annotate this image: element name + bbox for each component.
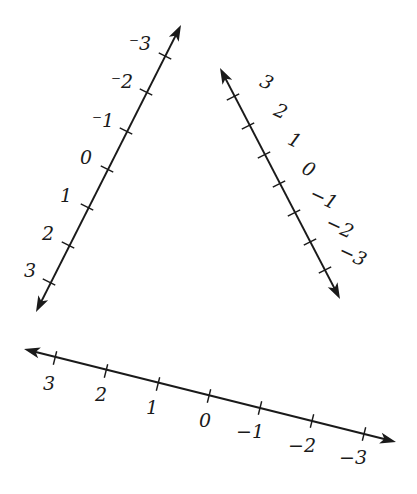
tick-label: ⁻2 [111, 70, 133, 92]
arrow-end-icon [169, 25, 181, 42]
tick-label: 0 [80, 146, 92, 168]
number-lines-layer: 3210⁻1⁻2⁻33210−1−2−33210−1−2−3 [24, 25, 396, 468]
arrow-start-icon [220, 68, 232, 85]
tick-label: 2 [270, 98, 291, 123]
tick-label: −1 [236, 420, 264, 442]
tick-label: ⁻3 [129, 32, 151, 54]
tick-mark [104, 364, 107, 378]
tick-label: 2 [94, 383, 107, 405]
arrow-end-icon [328, 282, 340, 299]
tick-label: −3 [339, 446, 367, 468]
arrow-start-icon [36, 295, 48, 312]
tick-label: 3 [43, 372, 55, 394]
left-line: 3210⁻1⁻2⁻3 [24, 25, 181, 312]
tick-label: −1 [307, 182, 342, 214]
right-line: 3210−1−2−3 [220, 68, 370, 299]
tick-label: −2 [288, 434, 316, 456]
tick-label: 1 [146, 396, 158, 418]
tick-label: −3 [336, 239, 371, 271]
tick-label: −2 [323, 211, 358, 243]
axis-line [40, 32, 178, 305]
tick-label: 3 [257, 69, 277, 94]
tick-label: 2 [41, 222, 54, 244]
tick-label: 3 [24, 259, 36, 281]
tick-mark [156, 377, 159, 391]
tick-label: 0 [299, 156, 319, 181]
diagram-canvas: 3210⁻1⁻2⁻33210−1−2−33210−1−2−3 [0, 0, 417, 494]
number-lines-diagram: 3210⁻1⁻2⁻33210−1−2−33210−1−2−3 [0, 0, 417, 494]
bottom-line: 3210−1−2−3 [24, 348, 396, 468]
tick-label: 1 [285, 127, 305, 152]
tick-label: 0 [199, 409, 211, 431]
tick-label: ⁻1 [92, 109, 114, 131]
tick-label: 1 [60, 184, 72, 206]
